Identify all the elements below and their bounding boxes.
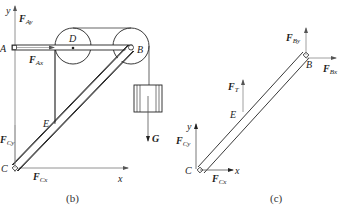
axis-x-label-c: x — [234, 165, 240, 176]
force-ft-label: FT — [227, 81, 240, 94]
bar-cb-c-edge1 — [198, 52, 303, 167]
force-fax-label: FAx — [28, 54, 44, 67]
force-fcx-c-label: FCx — [211, 173, 227, 186]
point-a-label: A — [0, 43, 7, 54]
figure-c: FBy B FBx FT E y FCy C x FCx (c) — [175, 28, 338, 205]
bar-cb-c-fill — [201, 55, 306, 170]
point-c-c-label: C — [185, 165, 192, 176]
point-e-label: E — [42, 118, 49, 129]
caption-c: (c) — [270, 192, 283, 205]
force-fcx-label: FCx — [32, 171, 48, 184]
force-fcy-label: FCy — [0, 134, 15, 147]
bar-cb-c-edge2 — [204, 58, 309, 173]
point-b-c-label: B — [306, 59, 312, 70]
statics-diagram: y FAy A D B FAx E FCy C FCx x G (b) FBy … — [0, 0, 340, 213]
center-d — [72, 47, 75, 50]
point-c-label: C — [1, 163, 8, 174]
caption-b: (b) — [66, 192, 79, 205]
axis-y-label-b: y — [5, 5, 11, 16]
figure-b: y FAy A D B FAx E FCy C FCx x G (b) — [0, 5, 162, 205]
pin-b — [129, 45, 134, 50]
force-fby-label: FBy — [285, 32, 301, 45]
bar-cb-edge2 — [18, 51, 134, 171]
bar-cb-edge2b — [17, 51, 133, 171]
axis-y-label-c: y — [186, 121, 192, 132]
force-fay-label: FAy — [18, 13, 34, 26]
force-g-label: G — [152, 133, 160, 144]
force-fcy-c-label: FCy — [175, 135, 191, 148]
pin-a — [13, 46, 17, 50]
point-e-c-label: E — [229, 109, 236, 120]
point-d-label: D — [68, 33, 77, 44]
force-fbx-label: FBx — [322, 63, 338, 76]
axis-x-label-b: x — [117, 173, 123, 184]
point-b-label: B — [137, 44, 143, 55]
bar-cb-fill — [15, 48, 131, 168]
